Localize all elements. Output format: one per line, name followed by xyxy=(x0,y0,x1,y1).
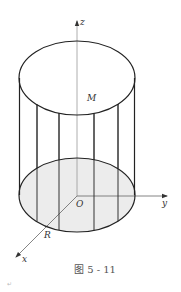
cylinder-diagram: z M O y R x 图 5 - 11 ↵ xyxy=(0,0,181,292)
paragraph-mark: ↵ xyxy=(7,280,12,287)
y-axis-label: y xyxy=(161,198,168,208)
origin-label: O xyxy=(76,199,84,209)
figure-caption: 图 5 - 11 xyxy=(74,264,116,275)
radius-label: R xyxy=(43,230,51,240)
x-axis-label: x xyxy=(22,254,27,264)
z-axis-label: z xyxy=(79,17,85,27)
point-m-label: M xyxy=(86,93,97,103)
